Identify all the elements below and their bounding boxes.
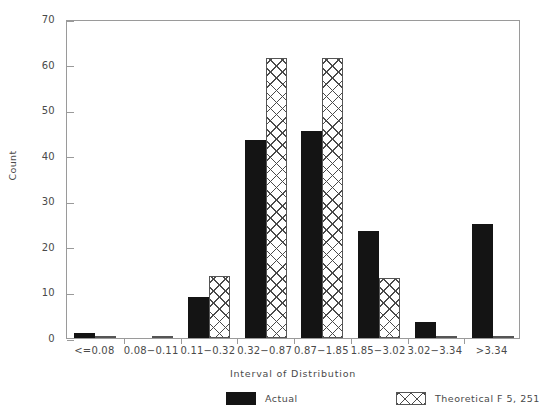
x-tick-label: <=0.08 [74,345,114,356]
chart-legend: ActualTheoretical F 5, 251 [66,392,536,408]
legend-swatch-actual [226,392,256,405]
bar-actual [358,231,379,338]
x-tick-mark [294,338,295,344]
x-tick-label: 0.08−0.11 [124,345,179,356]
plot-area: 010203040506070 [66,20,520,339]
x-tick-mark [181,338,182,344]
y-axis-title: Count [7,136,18,196]
bar-theoretical [379,278,400,338]
x-tick-label: 0.32−0.87 [237,345,292,356]
bar-actual [74,333,95,338]
x-axis-title: Interval of Distribution [66,368,520,379]
bar-actual [472,224,493,338]
x-tick-label: 0.87−1.85 [294,345,349,356]
bar-theoretical [266,58,287,338]
legend-entry: Theoretical F 5, 251 [396,392,540,405]
bars-layer [67,21,519,338]
x-axis-tick-labels: <=0.080.08−0.110.11−0.320.32−0.870.87−1.… [66,345,520,361]
y-tick-label: 0 [48,333,55,344]
bar-theoretical [436,336,457,338]
y-tick-mark [67,340,74,341]
x-tick-mark [464,338,465,344]
x-tick-label: 0.11−0.32 [181,345,236,356]
x-tick-mark [237,338,238,344]
bar-chart: Count 010203040506070 <=0.080.08−0.110.1… [0,0,540,413]
y-tick-label: 10 [42,287,55,298]
bar-theoretical [209,276,230,338]
legend-label: Actual [265,393,298,404]
bar-actual [301,131,322,338]
x-tick-mark [124,338,125,344]
bar-theoretical [322,58,343,338]
y-tick-label: 40 [42,151,55,162]
x-tick-label: >3.34 [476,345,508,356]
bar-actual [188,297,209,338]
legend-label: Theoretical F 5, 251 [435,393,540,404]
y-tick-label: 70 [42,14,55,25]
legend-swatch-theoretical [396,392,426,405]
y-tick-label: 30 [42,196,55,207]
y-tick-label: 20 [42,242,55,253]
bar-actual [415,322,436,338]
bar-theoretical [493,336,514,338]
bar-theoretical [95,336,116,338]
x-tick-mark [351,338,352,344]
bar-theoretical [152,336,173,338]
x-tick-mark [408,338,409,344]
bar-actual [245,140,266,338]
legend-entry: Actual [226,392,298,405]
x-tick-label: 1.85−3.02 [351,345,406,356]
y-tick-label: 60 [42,60,55,71]
x-tick-label: 3.02−3.34 [408,345,463,356]
y-tick-label: 50 [42,105,55,116]
